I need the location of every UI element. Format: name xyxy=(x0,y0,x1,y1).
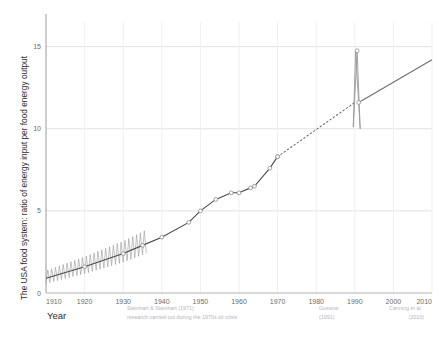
y-axis-title: The USA food system: ratio of energy inp… xyxy=(19,55,29,300)
x-tick-label-1960: 1960 xyxy=(231,298,247,305)
x-tick-label-2000: 2000 xyxy=(386,298,402,305)
data-point-marker xyxy=(121,252,125,256)
x-tick-label-1920: 1920 xyxy=(77,298,93,305)
x-tick-label-1990: 1990 xyxy=(347,298,363,305)
canning-note-line-1: Canning et al. xyxy=(389,305,422,311)
data-point-marker-gussow xyxy=(357,101,361,105)
x-tick-label-1940: 1940 xyxy=(154,298,170,305)
x-tick-label-2010: 2010 xyxy=(416,298,432,305)
data-point-marker xyxy=(237,191,241,195)
steinhart-note-line-1: Steinhart & Steinhart (1971) xyxy=(127,305,194,311)
data-point-marker xyxy=(160,235,164,239)
x-tick-label-1930: 1930 xyxy=(115,298,131,305)
y-tick-label-10: 10 xyxy=(33,125,41,132)
data-point-marker xyxy=(253,184,257,188)
data-point-marker xyxy=(141,243,145,247)
x-tick-label-1910: 1910 xyxy=(46,298,62,305)
x-axis-title: Year xyxy=(47,310,66,321)
x-tick-label-1970: 1970 xyxy=(270,298,286,305)
chart-background xyxy=(0,0,439,344)
data-point-marker-gussow-high xyxy=(355,49,359,53)
data-point-marker xyxy=(268,166,272,170)
data-point-marker xyxy=(214,197,218,201)
data-point-marker xyxy=(276,155,280,159)
data-point-marker xyxy=(249,186,253,190)
x-tick-label-1980: 1980 xyxy=(308,298,324,305)
y-tick-label-5: 5 xyxy=(37,207,41,214)
data-point-marker xyxy=(187,220,191,224)
steinhart-note-line-2: research carried out during the 1970s oi… xyxy=(127,314,238,320)
canning-note-line-2: (2010) xyxy=(408,314,424,320)
y-tick-label-0: 0 xyxy=(37,290,41,297)
x-tick-label-1950: 1950 xyxy=(193,298,209,305)
chart-container: 1910192019301940195019601970198019902000… xyxy=(0,0,439,344)
gussow-note-line-2: (1991) xyxy=(319,314,335,320)
y-tick-label-15: 15 xyxy=(33,43,41,50)
energy-ratio-line-chart: 1910192019301940195019601970198019902000… xyxy=(0,0,439,344)
data-point-marker xyxy=(199,209,203,213)
data-point-marker xyxy=(83,265,87,269)
data-point-marker xyxy=(229,191,233,195)
gussow-note-line-1: Gussow xyxy=(319,305,339,311)
